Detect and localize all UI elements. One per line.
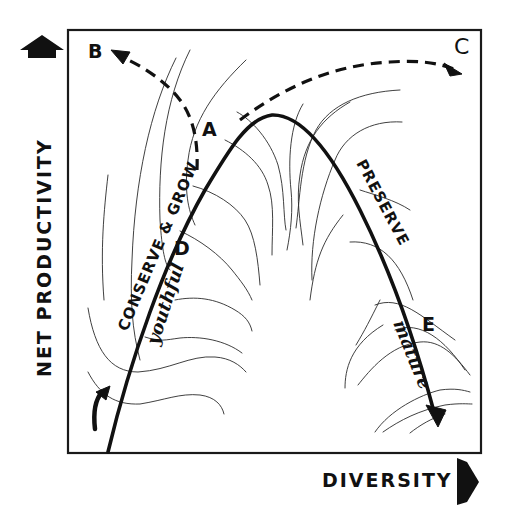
up-arrow-icon xyxy=(20,35,64,58)
point-label-b: B xyxy=(88,40,102,62)
y-axis-label: NET PRODUCTIVITY xyxy=(33,138,55,377)
point-label-c: C xyxy=(454,34,469,59)
point-label-a: A xyxy=(202,118,217,140)
succession-diagram: B C A D E CONSERVE & GROW PRESERVE youth… xyxy=(0,0,512,522)
right-arrow-icon xyxy=(457,458,479,505)
dashed-path-a-to-c xyxy=(240,61,456,120)
succession-curve xyxy=(108,115,434,452)
label-preserve: PRESERVE xyxy=(352,156,413,249)
curve-end-arrow-icon xyxy=(426,405,446,427)
dashed-path-a-to-b xyxy=(122,57,197,170)
x-axis-label: DIVERSITY xyxy=(322,469,453,491)
start-arrow-icon xyxy=(94,386,110,429)
arrow-c-icon xyxy=(444,63,462,76)
point-label-e: E xyxy=(422,313,435,335)
arrow-b-icon xyxy=(111,50,130,64)
point-label-d: D xyxy=(174,237,190,259)
